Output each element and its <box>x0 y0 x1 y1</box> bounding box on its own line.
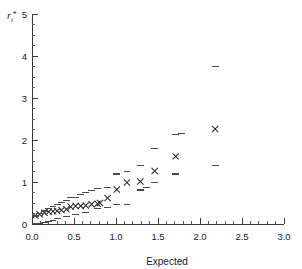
x-tick-label: 1.5 <box>151 231 164 242</box>
y-tick-label: 0 <box>22 219 27 230</box>
x-tick-label: 1.0 <box>109 231 122 242</box>
y-axis-title-superscript: * <box>13 10 17 19</box>
scatter-plot-canvas: 0.00.51.01.52.02.53.0012345 Expected ri* <box>0 0 302 269</box>
x-tick-label: 2.5 <box>235 231 248 242</box>
plot-background <box>0 0 302 269</box>
y-tick-label: 4 <box>22 51 27 62</box>
y-tick-label: 2 <box>22 135 27 146</box>
y-tick-label: 5 <box>22 9 27 20</box>
chart-figure: 0.00.51.01.52.02.53.0012345 Expected ri* <box>0 0 302 269</box>
x-axis-title: Expected <box>146 256 188 267</box>
x-tick-label: 0.5 <box>67 231 80 242</box>
y-tick-label: 3 <box>22 93 27 104</box>
x-tick-label: 2.0 <box>193 231 206 242</box>
x-tick-label: 0.0 <box>25 231 38 242</box>
x-tick-label: 3.0 <box>277 231 290 242</box>
y-tick-label: 1 <box>22 177 27 188</box>
